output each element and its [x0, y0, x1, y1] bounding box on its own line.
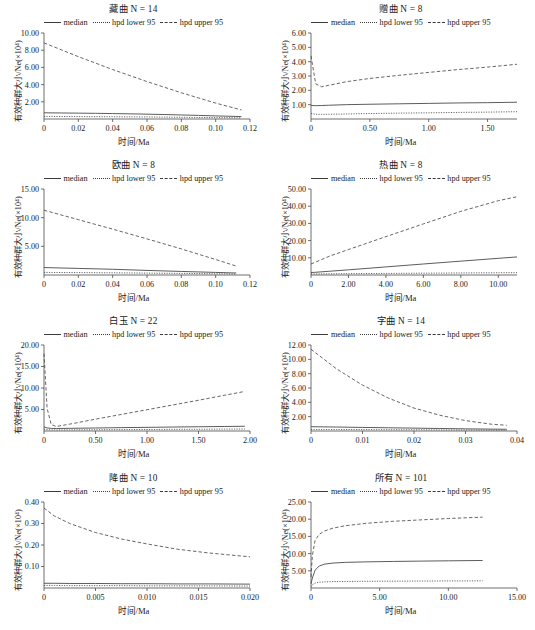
legend-line-dashed-icon	[428, 491, 445, 492]
x-tick-label: 0.06	[140, 280, 154, 289]
x-axis-label: 时间/Ma	[0, 291, 267, 303]
x-tick-label: 0.03	[458, 436, 472, 445]
series-line-hpd-lower-95	[311, 429, 507, 430]
series-line-hpd-lower-95	[44, 585, 250, 586]
legend-label: hpd lower 95	[380, 18, 423, 27]
legend-item: hpd lower 95	[93, 330, 156, 339]
legend-line-dotted-icon	[360, 334, 377, 335]
x-axis-label: 时间/Ma	[0, 604, 267, 616]
plot-svg: 5.0010.0015.0000.020.040.060.080.100.12	[0, 183, 267, 295]
y-tick-label: 10.00	[288, 254, 306, 263]
chart-panel: 字曲 N = 14medianhpd lower 95hpd upper 95有…	[267, 312, 535, 469]
series-line-hpd-upper-95	[44, 354, 245, 427]
x-axis-label: 时间/Ma	[267, 604, 534, 616]
panel-title: 欧曲 N = 8	[0, 156, 267, 171]
series-line-hpd-upper-95	[44, 210, 236, 266]
x-tick-label: 0	[309, 280, 313, 289]
y-axis-label: 有效种群大小/Ne(×10⁴)	[266, 261, 278, 349]
y-tick-label: 5.00	[292, 43, 306, 52]
legend-line-solid-icon	[44, 491, 61, 492]
series-line-hpd-lower-95	[311, 581, 483, 587]
x-axis-label: 时间/Ma	[267, 135, 534, 147]
plot-svg: 2.004.006.008.0010.0000.020.040.060.080.…	[0, 27, 267, 139]
legend-item: median	[44, 18, 88, 27]
legend-label: hpd upper 95	[180, 330, 223, 339]
legend-item: hpd upper 95	[428, 18, 491, 27]
y-tick-label: 15.00	[21, 185, 39, 194]
chart-legend: medianhpd lower 95hpd upper 95	[267, 18, 535, 27]
legend-label: hpd lower 95	[380, 174, 423, 183]
x-tick-label: 0.10	[209, 280, 223, 289]
legend-label: hpd lower 95	[112, 330, 155, 339]
x-tick-label: 0	[42, 280, 46, 289]
y-tick-label: 0.10	[25, 562, 39, 571]
x-tick-label: 0.005	[86, 593, 104, 602]
x-tick-label: 2.00	[243, 436, 257, 445]
chart-panel: 赠曲 N = 8medianhpd lower 95hpd upper 95有效…	[267, 0, 535, 156]
series-line-hpd-lower-95	[44, 116, 241, 117]
chart-legend: medianhpd lower 95hpd upper 95	[267, 487, 535, 496]
legend-label: median	[331, 18, 355, 27]
series-line-median	[44, 268, 236, 273]
chart-legend: medianhpd lower 95hpd upper 95	[0, 487, 267, 496]
series-line-median	[311, 560, 483, 583]
x-tick-label: 0.02	[71, 124, 85, 133]
y-tick-label: 5.00	[25, 405, 39, 414]
y-tick-label: 2.00	[25, 98, 39, 107]
y-axis-label: 有效种群大小/Ne(×10⁴)	[0, 261, 11, 349]
legend-item: median	[44, 487, 88, 496]
plot-svg: 5.0010.0015.0020.0025.0005.0010.0015.00	[267, 496, 534, 608]
plot-area: 有效种群大小/Ne(×10⁴)5.0010.0015.0020.0000.501…	[0, 339, 267, 451]
legend-label: hpd upper 95	[447, 18, 490, 27]
legend-label: hpd upper 95	[447, 487, 490, 496]
y-tick-label: 20.00	[288, 237, 306, 246]
x-tick-label: 0	[309, 436, 313, 445]
y-tick-label: 1.00	[292, 101, 306, 110]
panel-title: 赠曲 N = 8	[267, 0, 535, 15]
series-line-hpd-upper-95	[44, 508, 250, 557]
x-tick-label: 1.50	[480, 124, 494, 133]
series-line-hpd-lower-95	[311, 112, 517, 115]
y-tick-label: 10.00	[21, 384, 39, 393]
legend-item: hpd upper 95	[428, 487, 491, 496]
legend-label: hpd upper 95	[447, 174, 490, 183]
x-tick-label: 6.00	[416, 280, 430, 289]
legend-line-solid-icon	[311, 22, 328, 23]
y-tick-label: 40.00	[288, 202, 306, 211]
plot-svg: 5.0010.0015.0020.0000.501.001.502.00	[0, 339, 267, 451]
legend-label: median	[331, 487, 355, 496]
y-tick-label: 4.00	[292, 398, 306, 407]
series-line-hpd-upper-95	[44, 43, 241, 110]
x-tick-label: 5.00	[373, 593, 387, 602]
y-tick-label: 30.00	[288, 219, 306, 228]
chart-legend: medianhpd lower 95hpd upper 95	[267, 174, 535, 183]
legend-line-dotted-icon	[93, 22, 110, 23]
plot-svg: 1.002.003.004.005.006.0000.501.001.50	[267, 27, 534, 139]
chart-panel: 藏曲 N = 14medianhpd lower 95hpd upper 95有…	[0, 0, 267, 156]
y-tick-label: 8.00	[25, 46, 39, 55]
legend-line-dotted-icon	[93, 334, 110, 335]
legend-line-dotted-icon	[93, 178, 110, 179]
legend-item: hpd lower 95	[360, 487, 423, 496]
legend-line-dashed-icon	[160, 334, 177, 335]
legend-item: median	[311, 330, 355, 339]
legend-line-dotted-icon	[360, 491, 377, 492]
y-tick-label: 15.00	[288, 532, 306, 541]
y-tick-label: 12.00	[288, 341, 306, 350]
legend-line-solid-icon	[311, 334, 328, 335]
x-tick-label: 0.04	[106, 280, 120, 289]
x-axis-label: 时间/Ma	[0, 135, 267, 147]
legend-label: median	[63, 18, 87, 27]
legend-line-dotted-icon	[360, 178, 377, 179]
y-tick-label: 5.00	[292, 567, 306, 576]
chart-panel: 热曲 N = 8medianhpd lower 95hpd upper 95有效…	[267, 156, 535, 312]
plot-area: 有效种群大小/Ne(×10⁴)1.002.003.004.005.006.000…	[267, 27, 534, 139]
y-axis-label: 有效种群大小/Ne(×10⁴)	[0, 418, 11, 506]
x-tick-label: 0.50	[363, 124, 377, 133]
x-axis-label: 时间/Ma	[267, 291, 534, 303]
legend-line-dashed-icon	[428, 178, 445, 179]
legend-label: median	[63, 174, 87, 183]
y-tick-label: 25.00	[288, 498, 306, 507]
chart-legend: medianhpd lower 95hpd upper 95	[267, 330, 535, 339]
legend-label: hpd lower 95	[112, 174, 155, 183]
